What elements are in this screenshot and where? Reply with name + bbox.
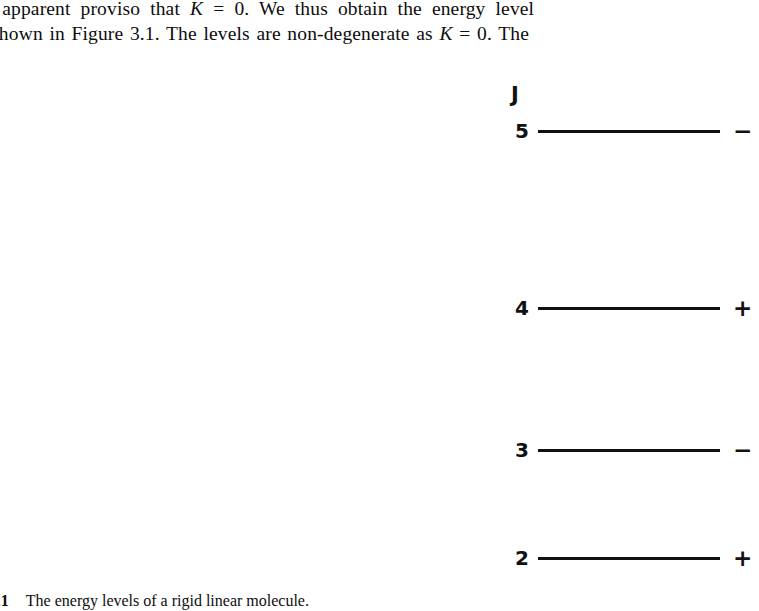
energy-level-parity-j3: −	[733, 437, 759, 463]
energy-level-diagram: J 5 − 4 + 3 − 2 +	[0, 0, 759, 611]
energy-level-parity-j2: +	[733, 545, 759, 571]
figure-caption-number: ure 3.1	[0, 592, 9, 609]
energy-level-line-j2	[538, 557, 720, 560]
energy-level-row-j3: 3 −	[505, 437, 759, 463]
energy-level-parity-j4: +	[733, 295, 759, 321]
energy-level-line-j4	[538, 307, 720, 310]
energy-level-row-j4: 4 +	[505, 295, 759, 321]
energy-level-line-j5	[538, 130, 720, 133]
figure-caption: ure 3.1The energy levels of a rigid line…	[0, 592, 759, 610]
energy-level-row-j2: 2 +	[505, 545, 759, 571]
energy-level-label-j5: 5	[505, 118, 529, 144]
energy-level-label-j3: 3	[505, 437, 529, 463]
energy-level-line-j3	[538, 449, 720, 452]
quantum-number-axis-label: J	[511, 85, 519, 106]
figure-caption-text: The energy levels of a rigid linear mole…	[26, 592, 309, 609]
energy-level-row-j5: 5 −	[505, 118, 759, 144]
energy-level-parity-j5: −	[733, 118, 759, 144]
energy-level-label-j2: 2	[505, 545, 529, 571]
energy-level-label-j4: 4	[505, 295, 529, 321]
